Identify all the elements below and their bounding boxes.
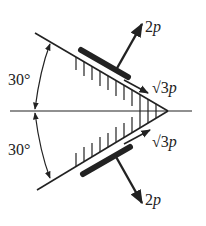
lower-shear-label: √3p [152, 133, 177, 151]
wedge-diagram: 30° 30° 2p √3p √3p 2p [0, 0, 206, 226]
upper-normal-label: 2p [145, 18, 161, 36]
lower-normal-arrow [115, 155, 142, 203]
upper-shear-label: √3p [152, 79, 177, 97]
upper-normal-arrow [116, 24, 142, 70]
lower-normal-label: 2p [145, 191, 161, 209]
angle-top-label: 30° [8, 71, 30, 88]
upper-angle-arc [35, 44, 50, 109]
lower-shear-arrow [124, 130, 150, 144]
angle-bottom-label: 30° [8, 141, 30, 158]
upper-hatching [76, 57, 156, 111]
lower-angle-arc [35, 113, 50, 178]
